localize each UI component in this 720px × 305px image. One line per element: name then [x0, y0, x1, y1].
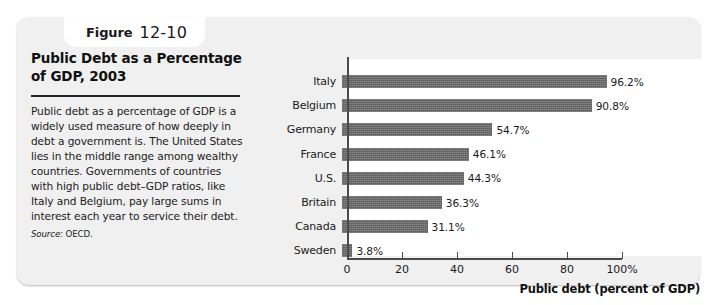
- bar-value-label: 44.3%: [468, 172, 501, 184]
- caption-source: Source: OECD.: [31, 229, 246, 239]
- bar-category-label: Germany: [254, 123, 342, 136]
- figure-number-tab: Figure 12-10: [64, 17, 205, 47]
- bar-fill: [342, 148, 469, 161]
- bar-category-label: U.S.: [254, 172, 342, 185]
- caption-body: Public debt as a percentage of GDP is a …: [31, 104, 246, 224]
- bar-value-label: 36.3%: [446, 197, 479, 209]
- bar-value-label: 3.8%: [356, 245, 383, 257]
- bar-track: 96.2%: [342, 75, 705, 88]
- bar-track: 90.8%: [342, 99, 705, 112]
- bar-rows: Italy96.2%Belgium90.8%Germany54.7%France…: [254, 59, 705, 256]
- x-axis-tick: [622, 252, 623, 259]
- x-axis-tick-label: 80: [560, 263, 574, 276]
- bar-fill: [342, 99, 592, 112]
- x-axis-line: [347, 258, 622, 260]
- bar-track: 36.3%: [342, 196, 705, 209]
- caption-title: Public Debt as a Percentage of GDP, 2003: [31, 50, 246, 86]
- bar-row: Belgium90.8%: [254, 99, 705, 112]
- bar-value-label: 90.8%: [596, 100, 629, 112]
- bar-row: Canada31.1%: [254, 220, 705, 233]
- source-label: Source:: [31, 229, 63, 239]
- caption-column: Public Debt as a Percentage of GDP, 2003…: [31, 50, 246, 239]
- x-axis-tick-label: 100%: [606, 263, 637, 276]
- bar-row: Sweden3.8%: [254, 244, 705, 257]
- bar-value-label: 46.1%: [473, 148, 506, 160]
- x-axis-title: Public debt (percent of GDP): [519, 282, 700, 296]
- bar-row: Britain36.3%: [254, 196, 705, 209]
- caption-divider: [31, 95, 240, 97]
- bar-value-label: 96.2%: [611, 76, 644, 88]
- bar-track: 31.1%: [342, 220, 705, 233]
- x-axis-tick: [347, 252, 348, 259]
- bar-fill: [342, 172, 464, 185]
- bar-track: 54.7%: [342, 123, 705, 136]
- bar-row: U.S.44.3%: [254, 172, 705, 185]
- x-axis-tick: [512, 252, 513, 259]
- source-value: OECD.: [66, 229, 93, 239]
- bar-value-label: 31.1%: [432, 221, 465, 233]
- bar-track: 44.3%: [342, 172, 705, 185]
- figure-number: 12-10: [140, 23, 188, 42]
- y-axis-line: [347, 57, 349, 259]
- bar-category-label: Belgium: [254, 99, 342, 112]
- bar-fill: [342, 123, 492, 136]
- x-axis-tick-label: 60: [505, 263, 519, 276]
- bar-fill: [342, 220, 428, 233]
- figure-label: Figure: [86, 25, 133, 40]
- x-axis-tick: [457, 252, 458, 259]
- bar-track: 46.1%: [342, 148, 705, 161]
- bar-category-label: Italy: [254, 75, 342, 88]
- bar-fill: [342, 196, 442, 209]
- x-axis-tick: [402, 252, 403, 259]
- bar-value-label: 54.7%: [496, 124, 529, 136]
- bar-chart: Italy96.2%Belgium90.8%Germany54.7%France…: [254, 39, 700, 285]
- bar-row: France46.1%: [254, 148, 705, 161]
- bar-category-label: Canada: [254, 220, 342, 233]
- bar-track: 3.8%: [342, 244, 705, 257]
- bar-category-label: Sweden: [254, 244, 342, 257]
- figure-panel: Figure 12-10 Public Debt as a Percentage…: [17, 17, 700, 285]
- bar-row: Italy96.2%: [254, 75, 705, 88]
- x-axis-tick-label: 40: [450, 263, 464, 276]
- bar-row: Germany54.7%: [254, 123, 705, 136]
- bar-fill: [342, 75, 607, 88]
- x-axis-tick: [567, 252, 568, 259]
- bar-category-label: France: [254, 148, 342, 161]
- x-axis-tick-label: 20: [395, 263, 409, 276]
- x-axis-tick-label: 0: [344, 263, 351, 276]
- bar-category-label: Britain: [254, 196, 342, 209]
